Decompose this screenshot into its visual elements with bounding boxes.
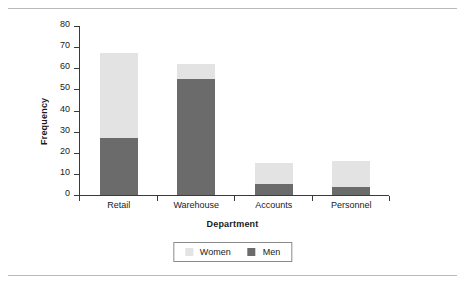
y-axis-tick-label: 20	[48, 146, 70, 156]
y-axis-tick: 50	[74, 89, 79, 90]
plot-area: 01020304050607080	[79, 26, 389, 196]
x-axis-tick-label: Accounts	[255, 200, 292, 210]
stacked-bar-chart-figure: Frequency 01020304050607080 RetailWareho…	[0, 10, 465, 272]
y-axis-tick: 70	[74, 47, 79, 48]
bar-segment-men[interactable]	[332, 187, 370, 195]
y-axis-tick: 30	[74, 132, 79, 133]
bar-group-personnel[interactable]	[332, 161, 370, 195]
top-divider-rule	[8, 8, 457, 9]
x-axis-tick-label: Retail	[107, 200, 130, 210]
chart-legend: WomenMen	[173, 242, 292, 262]
y-axis-tick: 40	[74, 111, 79, 112]
legend-swatch-men	[248, 248, 256, 256]
bar-segment-men[interactable]	[100, 138, 138, 195]
bar-segment-women[interactable]	[100, 53, 138, 138]
bar-segment-men[interactable]	[177, 79, 215, 195]
bar-group-warehouse[interactable]	[177, 64, 215, 195]
y-axis-tick: 20	[74, 153, 79, 154]
legend-swatch-women	[185, 248, 193, 256]
y-axis-tick-label: 30	[48, 125, 70, 135]
y-axis-tick-label: 10	[48, 167, 70, 177]
legend-label: Women	[200, 247, 231, 257]
y-axis-tick: 80	[74, 26, 79, 27]
legend-item-men[interactable]: Men	[248, 247, 281, 257]
legend-item-women[interactable]: Women	[185, 247, 231, 257]
y-axis-tick: 10	[74, 174, 79, 175]
bar-group-accounts[interactable]	[255, 163, 293, 195]
y-axis-tick-label: 50	[48, 82, 70, 92]
y-axis-tick-label: 40	[48, 104, 70, 114]
bottom-divider-rule	[8, 275, 457, 276]
bar-segment-women[interactable]	[332, 161, 370, 186]
legend-label: Men	[263, 247, 281, 257]
x-tick-label-container: RetailWarehouseAccountsPersonnel	[79, 200, 390, 214]
bar-segment-women[interactable]	[177, 64, 215, 79]
x-axis-tick-label: Personnel	[331, 200, 372, 210]
x-axis-title: Department	[0, 219, 465, 229]
y-axis-tick-label: 70	[48, 40, 70, 50]
bar-segment-women[interactable]	[255, 163, 293, 184]
y-axis-tick-label: 60	[48, 61, 70, 71]
bar-series-container	[80, 26, 389, 195]
y-axis-tick: 60	[74, 68, 79, 69]
y-axis-tick-label: 0	[48, 188, 70, 198]
bar-group-retail[interactable]	[100, 53, 138, 195]
bar-segment-men[interactable]	[255, 184, 293, 195]
y-axis-tick-label: 80	[48, 19, 70, 29]
x-axis-tick-label: Warehouse	[173, 200, 219, 210]
